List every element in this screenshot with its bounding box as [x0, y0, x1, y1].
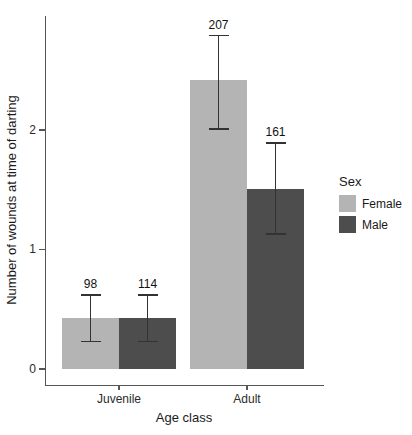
legend-item-female: Female	[339, 195, 402, 212]
sample-size-label-juvenile-female: 98	[71, 277, 111, 291]
x-tick-mark	[246, 385, 247, 391]
errorbar-juvenile-female	[90, 295, 92, 342]
sample-size-label-adult-female: 207	[199, 18, 239, 32]
y-axis-line	[45, 16, 46, 385]
x-tick-label: Adult	[207, 392, 287, 406]
x-axis-line	[45, 385, 324, 386]
y-tick-label: 2	[12, 123, 36, 138]
errorbar-cap-adult-male	[266, 142, 286, 144]
errorbar-juvenile-male	[147, 295, 149, 342]
legend-label-female: Female	[362, 197, 402, 211]
errorbar-cap-adult-male	[266, 233, 286, 235]
legend-items: FemaleMale	[339, 195, 402, 233]
y-tick-label: 1	[12, 242, 36, 257]
sample-size-label-juvenile-male: 114	[128, 277, 168, 291]
legend-label-male: Male	[362, 218, 388, 232]
errorbar-cap-juvenile-female	[81, 341, 101, 343]
errorbar-adult-male	[275, 143, 277, 234]
errorbar-adult-female	[218, 36, 220, 129]
errorbar-cap-adult-female	[209, 35, 229, 37]
grouped-bar-chart-figure: Number of wounds at time of darting 012J…	[0, 0, 412, 435]
y-tick-mark	[39, 249, 45, 250]
legend-item-male: Male	[339, 216, 402, 233]
legend-swatch-female	[339, 195, 356, 212]
y-tick-label: 0	[12, 362, 36, 377]
x-tick-mark	[118, 385, 119, 391]
legend: Sex FemaleMale	[339, 174, 402, 237]
errorbar-cap-juvenile-female	[81, 294, 101, 296]
legend-title: Sex	[339, 174, 402, 189]
y-tick-mark	[39, 368, 45, 369]
errorbar-cap-juvenile-male	[138, 341, 158, 343]
errorbar-cap-adult-female	[209, 128, 229, 130]
x-tick-label: Juvenile	[79, 392, 159, 406]
errorbar-cap-juvenile-male	[138, 294, 158, 296]
legend-swatch-male	[339, 216, 356, 233]
sample-size-label-adult-male: 161	[256, 125, 296, 139]
x-axis-title: Age class	[104, 410, 264, 425]
y-tick-mark	[39, 129, 45, 130]
